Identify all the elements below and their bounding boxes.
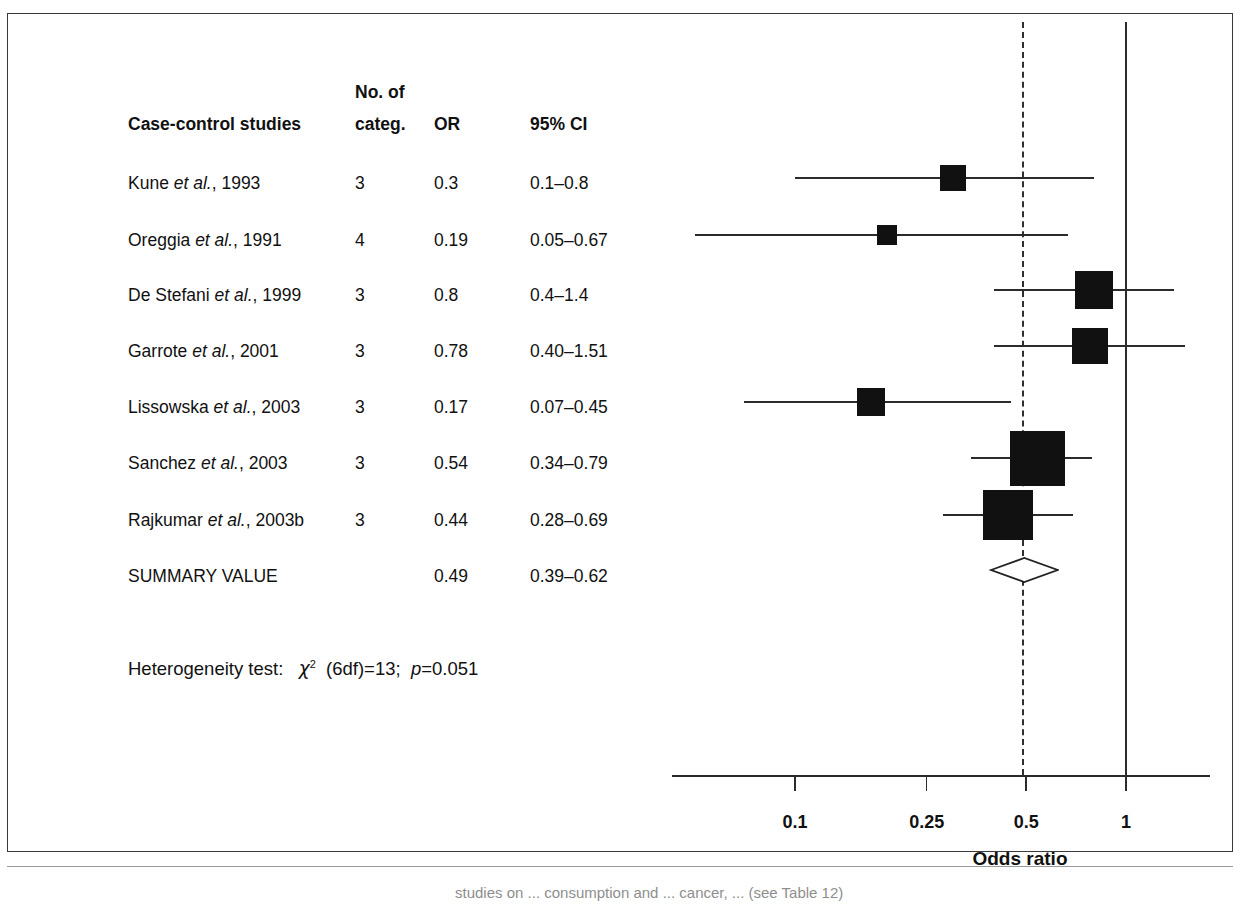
- table-row-categories: 3: [355, 455, 365, 473]
- study-year: , 1999: [253, 285, 302, 305]
- table-row-ci: 0.07–0.45: [530, 399, 608, 417]
- study-name: Garrote: [128, 341, 192, 361]
- table-row-ci: 0.28–0.69: [530, 512, 608, 530]
- et-al-italic: et al.: [201, 453, 239, 473]
- chi-symbol: χ: [299, 658, 310, 679]
- column-header-or: OR: [434, 116, 460, 134]
- table-row-or: 0.3: [434, 175, 458, 193]
- bottom-rule: [7, 866, 1233, 867]
- figure-caption: studies on ... consumption and ... cance…: [455, 884, 1155, 904]
- study-year: , 2003b: [246, 510, 304, 530]
- table-row-categories: 3: [355, 287, 365, 305]
- figure-frame: [7, 13, 1233, 852]
- table-row-ci: 0.4–1.4: [530, 287, 588, 305]
- column-header-ci: 95% CI: [530, 116, 587, 134]
- table-row-study-label: Kune et al., 1993: [128, 175, 260, 193]
- et-al-italic: et al.: [195, 230, 233, 250]
- column-header-study: Case-control studies: [128, 116, 301, 134]
- table-row-ci: 0.40–1.51: [530, 343, 608, 361]
- table-row-categories: 4: [355, 232, 365, 250]
- study-name: De Stefani: [128, 285, 215, 305]
- table-row-categories: 3: [355, 399, 365, 417]
- p-value: =0.051: [421, 658, 478, 679]
- study-year: , 1993: [212, 173, 261, 193]
- column-header-categories-line2: categ.: [355, 116, 406, 134]
- table-row-study-label: Lissowska et al., 2003: [128, 399, 300, 417]
- study-year: , 2001: [230, 341, 279, 361]
- table-row-study-label: Garrote et al., 2001: [128, 343, 279, 361]
- table-row-or: 0.17: [434, 399, 468, 417]
- table-row-or: 0.19: [434, 232, 468, 250]
- table-row-or: 0.54: [434, 455, 468, 473]
- study-name: Sanchez: [128, 453, 201, 473]
- study-name: Rajkumar: [128, 510, 208, 530]
- table-row-categories: 3: [355, 343, 365, 361]
- et-al-italic: et al.: [174, 173, 212, 193]
- table-row-study-label: Oreggia et al., 1991: [128, 232, 282, 250]
- study-name: Kune: [128, 173, 174, 193]
- chi-exponent: 2: [310, 658, 316, 670]
- et-al-italic: et al.: [215, 285, 253, 305]
- table-row-ci: 0.39–0.62: [530, 568, 608, 586]
- table-row-ci: 0.1–0.8: [530, 175, 588, 193]
- table-row-or: 0.78: [434, 343, 468, 361]
- heterogeneity-label: Heterogeneity test:: [128, 658, 283, 679]
- table-row-ci: 0.05–0.67: [530, 232, 608, 250]
- table-row-study-label: Sanchez et al., 2003: [128, 455, 288, 473]
- study-year: , 1991: [233, 230, 282, 250]
- table-row-ci: 0.34–0.79: [530, 455, 608, 473]
- table-row-or: 0.8: [434, 287, 458, 305]
- p-symbol: p: [411, 658, 421, 679]
- table-row-or: 0.44: [434, 512, 468, 530]
- forest-plot-figure: Case-control studies No. of categ. OR 95…: [0, 0, 1248, 906]
- study-name: Oreggia: [128, 230, 195, 250]
- column-header-categories-line1: No. of: [355, 84, 405, 102]
- table-row-study-label: Rajkumar et al., 2003b: [128, 512, 304, 530]
- study-year: , 2003: [239, 453, 288, 473]
- table-row-or: 0.49: [434, 568, 468, 586]
- study-name: Lissowska: [128, 397, 214, 417]
- et-al-italic: et al.: [192, 341, 230, 361]
- et-al-italic: et al.: [214, 397, 252, 417]
- heterogeneity-test-text: Heterogeneity test: χ2 (6df)=13; p=0.051: [128, 658, 478, 680]
- table-row-study-label: SUMMARY VALUE: [128, 568, 278, 586]
- degrees-of-freedom-text: (6df)=13;: [326, 658, 401, 679]
- et-al-italic: et al.: [208, 510, 246, 530]
- study-year: , 2003: [252, 397, 301, 417]
- table-row-study-label: De Stefani et al., 1999: [128, 287, 301, 305]
- table-row-categories: 3: [355, 512, 365, 530]
- table-row-categories: 3: [355, 175, 365, 193]
